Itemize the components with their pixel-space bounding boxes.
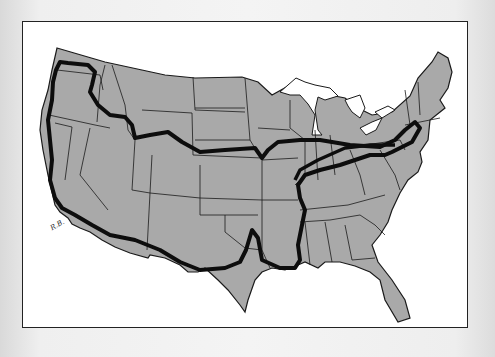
us-map	[0, 0, 495, 357]
